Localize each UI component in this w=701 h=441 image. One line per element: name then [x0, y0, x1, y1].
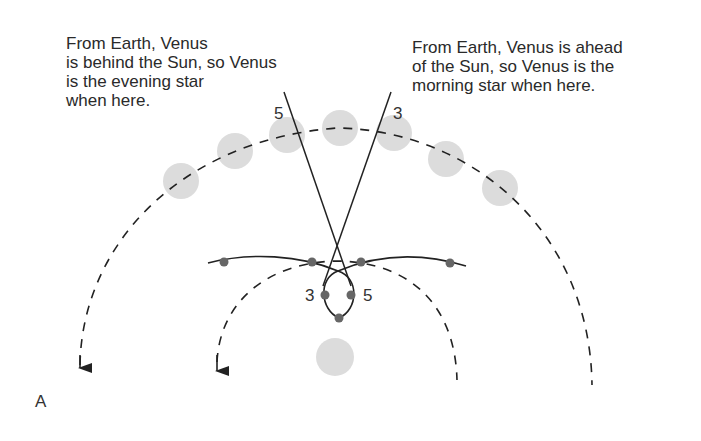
position-dot — [357, 258, 366, 267]
label-loop-3: 3 — [305, 286, 314, 306]
position-dot — [220, 258, 229, 267]
venus-position-discs — [163, 110, 518, 206]
sun-disc — [316, 338, 354, 376]
position-dots — [220, 258, 455, 323]
position-dot — [321, 291, 330, 300]
venus-disc — [322, 110, 358, 146]
label-loop-5: 5 — [363, 286, 372, 306]
caption-evening-star: From Earth, Venus is behind the Sun, so … — [66, 34, 277, 110]
position-dot — [308, 258, 317, 267]
apparent-path — [208, 256, 466, 271]
panel-label: A — [35, 392, 46, 412]
position-dot — [446, 259, 455, 268]
position-dot — [347, 291, 356, 300]
position-dot — [335, 314, 344, 323]
label-outer-5: 5 — [274, 104, 283, 124]
venus-disc — [163, 163, 199, 199]
label-outer-3: 3 — [393, 104, 402, 124]
caption-morning-star: From Earth, Venus is ahead of the Sun, s… — [412, 38, 623, 95]
